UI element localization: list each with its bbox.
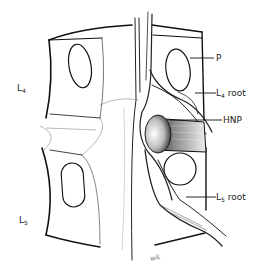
left-disc	[40, 118, 103, 155]
callout-p: P	[216, 54, 221, 63]
callout-l4-root: L4 root	[216, 89, 246, 99]
spine-illustration: L4 L5 P L4 root HNP L5 root wk	[0, 0, 264, 273]
label-l5-sub: 5	[24, 219, 28, 226]
callout-l4-root-suffix: root	[225, 88, 246, 98]
l4-left-vertebra	[46, 25, 132, 118]
l4-right-vertebra	[152, 25, 204, 120]
label-l5: L5	[19, 216, 28, 226]
label-l4-sub: 4	[22, 87, 26, 94]
callout-l5-root: L5 root	[216, 193, 246, 203]
callout-l5-root-suffix: root	[225, 192, 246, 202]
l5-left-vertebra	[42, 148, 100, 247]
spine-drawing	[0, 0, 264, 273]
callout-hnp: HNP	[223, 116, 242, 125]
label-l4: L4	[17, 84, 26, 94]
l5-right-vertebra	[154, 148, 206, 245]
